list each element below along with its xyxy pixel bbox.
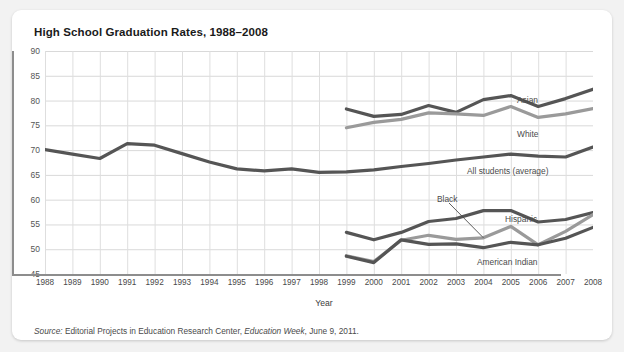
y-tick-85: 85 xyxy=(14,72,40,80)
x-tick-2007: 2007 xyxy=(556,278,574,287)
x-tick-1991: 1991 xyxy=(118,278,136,287)
x-tick-2005: 2005 xyxy=(502,278,520,287)
x-tick-1993: 1993 xyxy=(173,278,191,287)
x-tick-2006: 2006 xyxy=(529,278,547,287)
source-label: Source: xyxy=(34,326,63,336)
x-axis-line xyxy=(12,274,561,276)
x-tick-1998: 1998 xyxy=(310,278,328,287)
x-tick-1995: 1995 xyxy=(228,278,246,287)
x-tick-1988: 1988 xyxy=(36,278,54,287)
x-tick-2004: 2004 xyxy=(474,278,492,287)
x-tick-2003: 2003 xyxy=(447,278,465,287)
x-tick-1992: 1992 xyxy=(145,278,163,287)
x-tick-1999: 1999 xyxy=(337,278,355,287)
x-tick-1996: 1996 xyxy=(255,278,273,287)
x-tick-1997: 1997 xyxy=(282,278,300,287)
x-axis-title: Year xyxy=(12,298,624,308)
series-label-black: Black xyxy=(437,194,457,204)
screenshot-root: High School Graduation Rates, 1988–2008 … xyxy=(0,0,624,352)
series-label-american-indian: American Indian xyxy=(477,257,538,267)
page-title: High School Graduation Rates, 1988–2008 xyxy=(34,26,268,38)
y-tick-60: 60 xyxy=(14,196,40,204)
x-tick-1994: 1994 xyxy=(200,278,218,287)
y-tick-70: 70 xyxy=(14,146,40,154)
y-tick-80: 80 xyxy=(14,97,40,105)
series-label-hispanic: Hispanic xyxy=(505,214,537,224)
x-axis-tick-labels: 1988198919901991199219931994199519961997… xyxy=(45,278,594,292)
plot-area xyxy=(45,51,593,274)
x-tick-1989: 1989 xyxy=(63,278,81,287)
chart-card: High School Graduation Rates, 1988–2008 … xyxy=(12,10,612,340)
source-publication: Education Week xyxy=(244,326,304,336)
series-line-asian xyxy=(346,89,593,116)
y-axis-tick-labels: 45505560657075808590 xyxy=(12,51,40,275)
y-tick-90: 90 xyxy=(14,47,40,55)
x-tick-2008: 2008 xyxy=(584,278,602,287)
source-note: Source: Editorial Projects in Education … xyxy=(34,326,359,336)
x-tick-2002: 2002 xyxy=(419,278,437,287)
series-label-asian: Asian xyxy=(517,95,538,105)
y-tick-50: 50 xyxy=(14,245,40,253)
series-line-american-indian xyxy=(346,227,593,262)
series-label-all-students: All students (average) xyxy=(467,166,548,176)
x-tick-2001: 2001 xyxy=(392,278,410,287)
y-tick-55: 55 xyxy=(14,220,40,228)
y-tick-75: 75 xyxy=(14,121,40,129)
chart-series-lines xyxy=(45,51,593,274)
y-axis-line xyxy=(12,51,14,275)
source-body: Editorial Projects in Education Research… xyxy=(63,326,245,336)
source-date: , June 9, 2011. xyxy=(305,326,359,336)
x-tick-1990: 1990 xyxy=(91,278,109,287)
y-tick-65: 65 xyxy=(14,171,40,179)
series-label-white: White xyxy=(517,129,538,139)
x-tick-2000: 2000 xyxy=(365,278,383,287)
